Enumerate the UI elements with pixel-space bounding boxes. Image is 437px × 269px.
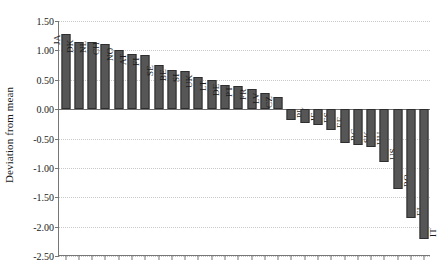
bar[interactable] xyxy=(420,109,429,239)
y-axis-tick xyxy=(55,197,59,198)
bar-category-label: LT xyxy=(198,81,207,92)
x-axis-tick xyxy=(291,256,292,260)
y-axis-tick-label: -1.50 xyxy=(33,192,54,203)
y-axis-title-label: Deviation from mean xyxy=(3,87,15,183)
bar-category-label: DE xyxy=(212,84,221,96)
bar-group: PL xyxy=(285,21,298,255)
y-axis-tick xyxy=(55,109,59,110)
bar-group: FR xyxy=(245,21,258,255)
x-axis-tick xyxy=(331,256,332,260)
x-axis-tick xyxy=(92,256,93,260)
bar-category-label: SI xyxy=(172,74,181,82)
bar-category-label: JA xyxy=(52,35,61,45)
bar-category-label: IT xyxy=(429,228,437,237)
x-axis-tick xyxy=(118,256,119,260)
x-axis-tick xyxy=(357,256,358,260)
x-axis-tick xyxy=(211,256,212,260)
y-axis-tick-label: -1.00 xyxy=(33,162,54,173)
bar-group: AT xyxy=(125,21,138,255)
plot-area: JADKNLCHNOATFISEBESIUKLTDEPTFRLVCZPLIEES… xyxy=(58,21,430,256)
y-axis-tick-label: 1.00 xyxy=(37,45,55,56)
bar-category-label: DK xyxy=(65,39,74,52)
y-axis-tick xyxy=(55,168,59,169)
y-axis-tick-label: 1.50 xyxy=(37,16,55,27)
y-axis-tick xyxy=(55,50,59,51)
x-axis-tick xyxy=(304,256,305,260)
bar-category-label: CZ xyxy=(265,96,274,108)
bar-category-label: BE xyxy=(158,69,167,81)
bar-group: BE xyxy=(165,21,178,255)
bar-category-label: SE xyxy=(145,65,154,76)
x-axis-tick xyxy=(411,256,412,260)
bar-category-label: NO xyxy=(105,48,114,61)
y-axis-tick-label: -2.00 xyxy=(33,221,54,232)
bar-category-label: UK xyxy=(185,74,194,87)
bar-category-label: FR xyxy=(238,89,247,100)
x-axis-tick xyxy=(318,256,319,260)
bar-group: BG xyxy=(338,21,351,255)
bar-group: IE xyxy=(298,21,311,255)
x-axis-tick xyxy=(424,256,425,260)
y-axis-tick xyxy=(55,139,59,140)
bar-group: SE xyxy=(152,21,165,255)
bar-category-label: AT xyxy=(119,53,128,64)
bar-group: DE xyxy=(218,21,231,255)
x-axis-tick xyxy=(105,256,106,260)
x-axis-tick xyxy=(238,256,239,260)
x-axis-tick xyxy=(171,256,172,260)
bar-group: SI xyxy=(179,21,192,255)
y-axis-tick xyxy=(55,80,59,81)
bar-group: IT xyxy=(418,21,431,255)
x-axis-tick xyxy=(371,256,372,260)
bar-group: FI xyxy=(139,21,152,255)
bar-category-label: NL xyxy=(79,40,88,52)
bar-group: DK xyxy=(72,21,85,255)
bar-group: US xyxy=(378,21,391,255)
bar-group: EL xyxy=(404,21,417,255)
x-axis-tick xyxy=(225,256,226,260)
bar-group: LT xyxy=(205,21,218,255)
x-axis-tick xyxy=(65,256,66,260)
x-axis-tick xyxy=(264,256,265,260)
x-axis-tick xyxy=(158,256,159,260)
x-axis-tick xyxy=(132,256,133,260)
bar-category-label: LV xyxy=(251,93,260,105)
y-axis-tick-label: -0.50 xyxy=(33,133,54,144)
bar-group: LV xyxy=(258,21,271,255)
x-axis-tick xyxy=(278,256,279,260)
bar-group: JA xyxy=(59,21,72,255)
x-axis-tick xyxy=(185,256,186,260)
y-axis-tick-label: -2.50 xyxy=(33,251,54,262)
x-axis-tick xyxy=(78,256,79,260)
x-axis-tick xyxy=(344,256,345,260)
bar-group: RO xyxy=(391,21,404,255)
x-axis-tick xyxy=(145,256,146,260)
y-axis-tick-label: 0.00 xyxy=(37,104,55,115)
bar-category-label: CH xyxy=(92,42,101,55)
bars-layer: JADKNLCHNOATFISEBESIUKLTDEPTFRLVCZPLIEES… xyxy=(59,21,430,255)
bar-group: UK xyxy=(192,21,205,255)
y-axis-tick xyxy=(55,21,59,22)
y-axis-tick xyxy=(55,227,59,228)
bar-group: PT xyxy=(232,21,245,255)
bar-group: HU xyxy=(365,21,378,255)
bar-group: SK xyxy=(351,21,364,255)
x-axis-tick xyxy=(251,256,252,260)
y-axis-title: Deviation from mean xyxy=(0,0,18,269)
bar-group: NL xyxy=(86,21,99,255)
bar[interactable] xyxy=(274,97,283,109)
x-axis-tick xyxy=(198,256,199,260)
bar-group: CZ xyxy=(272,21,285,255)
bar-chart: Deviation from mean 1.501.000.500.00-0.5… xyxy=(0,0,437,269)
bar[interactable] xyxy=(407,109,416,218)
x-axis-tick xyxy=(384,256,385,260)
x-axis-tick xyxy=(397,256,398,260)
bar[interactable] xyxy=(141,55,150,109)
bar-group: ES xyxy=(311,21,324,255)
y-axis-tick-label: 0.50 xyxy=(37,74,55,85)
y-axis-tick xyxy=(55,256,59,257)
bar-group: EE xyxy=(325,21,338,255)
gridline xyxy=(59,256,430,257)
bar-category-label: PT xyxy=(225,86,234,97)
bar-category-label: FI xyxy=(132,58,141,66)
